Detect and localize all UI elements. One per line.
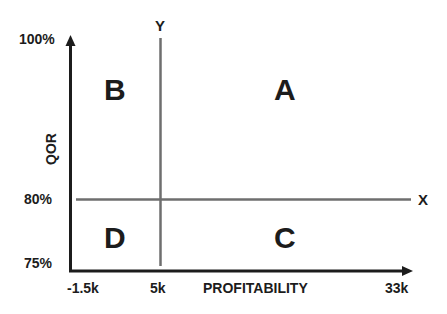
x-axis-title: PROFITABILITY xyxy=(203,281,308,295)
y-tick-80: 80% xyxy=(24,192,52,206)
diagram-lines xyxy=(0,0,447,314)
y-tick-75: 75% xyxy=(24,256,52,270)
x-tick-5k: 5k xyxy=(150,281,166,295)
x-axis-arrow xyxy=(69,266,413,276)
quadrant-b-label: B xyxy=(104,78,126,102)
y-tick-100: 100% xyxy=(19,32,55,46)
x-tick-neg1-5k: -1.5k xyxy=(67,281,99,295)
quadrant-d-label: D xyxy=(104,226,126,250)
quadrant-a-label: A xyxy=(274,78,296,102)
quadrant-c-label: C xyxy=(274,226,296,250)
y-axis-title: QOR xyxy=(44,133,58,165)
y-axis-arrow xyxy=(66,35,76,272)
x-tick-33k: 33k xyxy=(385,281,408,295)
x-divider-label: X xyxy=(418,193,428,207)
y-divider-label: Y xyxy=(155,19,165,33)
